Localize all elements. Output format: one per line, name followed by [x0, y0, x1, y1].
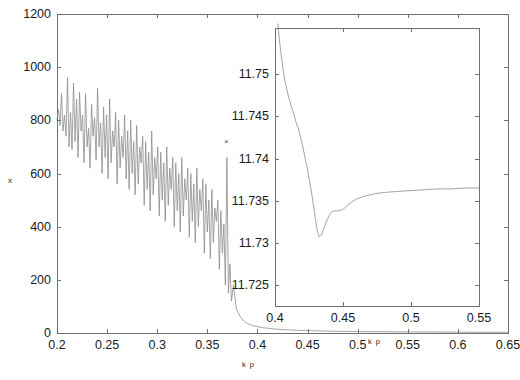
inset-y-tick-right: [475, 243, 479, 244]
axes-frame: [276, 29, 480, 307]
x-tick: [257, 329, 258, 333]
figure-canvas: 0.20.250.30.350.40.450.50.550.60.65 0200…: [0, 0, 520, 380]
x-tick-top: [257, 14, 258, 18]
x-tick: [358, 329, 359, 333]
x-tick: [107, 329, 108, 333]
inset-x-tick-label: 0.5: [402, 311, 419, 325]
y-tick: [57, 120, 61, 121]
inset-y-tick-right: [475, 159, 479, 160]
inset-y-tick: [275, 285, 279, 286]
x-tick: [308, 329, 309, 333]
inset-y-tick-right: [475, 201, 479, 202]
inset-x-tick-top: [275, 28, 276, 32]
inset-x-tick-label: 0.4: [266, 311, 283, 325]
x-tick: [207, 329, 208, 333]
x-tick-label: 0.25: [95, 338, 119, 352]
inset-y-tick-label: 11.735: [232, 194, 269, 208]
inset-y-tick-label: 11.75: [239, 67, 269, 81]
y-tick: [57, 14, 61, 15]
inset-x-tick: [479, 302, 480, 306]
x-tick-label: 0.6: [449, 338, 466, 352]
y-tick-right: [504, 174, 508, 175]
peak-marker-icon: ×: [224, 138, 229, 146]
inset-y-tick-label: 11.725: [232, 278, 269, 292]
x-tick-top: [458, 14, 459, 18]
x-tick-label: 0.4: [249, 338, 266, 352]
y-tick-label: 0: [44, 326, 51, 340]
x-tick-label: 0.65: [496, 338, 520, 352]
inset-y-tick-right: [475, 74, 479, 75]
y-tick-right: [504, 333, 508, 334]
x-tick-label: 0.45: [295, 338, 319, 352]
inset-x-tick: [343, 302, 344, 306]
inset-x-tick: [275, 302, 276, 306]
inset-y-tick-right: [475, 285, 479, 286]
inset-x-tick-top: [479, 28, 480, 32]
y-tick: [57, 333, 61, 334]
y-tick: [57, 280, 61, 281]
y-tick-label: 600: [30, 167, 51, 181]
inset-x-tick-top: [343, 28, 344, 32]
y-tick-right: [504, 280, 508, 281]
inset-y-tick: [275, 159, 279, 160]
x-tick-top: [308, 14, 309, 18]
x-tick-top: [358, 14, 359, 18]
y-tick-right: [504, 227, 508, 228]
y-tick-label: 400: [30, 220, 51, 234]
x-tick-top: [207, 14, 208, 18]
x-tick-top: [107, 14, 108, 18]
inset-x-tick-label: 0.55: [467, 311, 491, 325]
x-tick: [408, 329, 409, 333]
x-tick-top: [508, 14, 509, 18]
inset-x-tick-label: 0.45: [331, 311, 355, 325]
x-tick-top: [157, 14, 158, 18]
inset-y-tick: [275, 201, 279, 202]
inset-x-axis-label: k p: [368, 337, 381, 346]
inset-y-tick: [275, 116, 279, 117]
x-tick-label: 0.2: [48, 338, 65, 352]
inset-y-tick-label: 11.74: [239, 152, 269, 166]
inset-axes: [275, 28, 479, 306]
inset-y-tick-right: [475, 116, 479, 117]
x-tick-label: 0.5: [349, 338, 366, 352]
y-tick-right: [504, 67, 508, 68]
inset-y-tick: [275, 74, 279, 75]
x-tick-top: [408, 14, 409, 18]
y-tick: [57, 67, 61, 68]
inset-y-tick-label: 11.73: [239, 236, 269, 250]
inset-y-tick: [275, 243, 279, 244]
main-y-axis-label: x: [8, 176, 12, 185]
y-tick: [57, 174, 61, 175]
y-tick-label: 200: [30, 273, 51, 287]
x-tick: [157, 329, 158, 333]
y-tick-right: [504, 120, 508, 121]
y-tick-label: 1200: [23, 7, 51, 21]
inset-data-line: [278, 24, 479, 237]
x-tick-label: 0.35: [195, 338, 219, 352]
y-tick-label: 1000: [23, 60, 51, 74]
inset-plot-area: [275, 28, 479, 306]
x-tick: [458, 329, 459, 333]
inset-y-tick-label: 11.745: [232, 109, 269, 123]
inset-x-tick: [411, 302, 412, 306]
x-tick-label: 0.3: [149, 338, 166, 352]
main-x-axis-label: k p: [242, 360, 255, 369]
y-tick-right: [504, 14, 508, 15]
x-tick-label: 0.55: [396, 338, 420, 352]
x-tick: [508, 329, 509, 333]
y-tick-label: 800: [30, 113, 51, 127]
inset-x-tick-top: [411, 28, 412, 32]
y-tick: [57, 227, 61, 228]
